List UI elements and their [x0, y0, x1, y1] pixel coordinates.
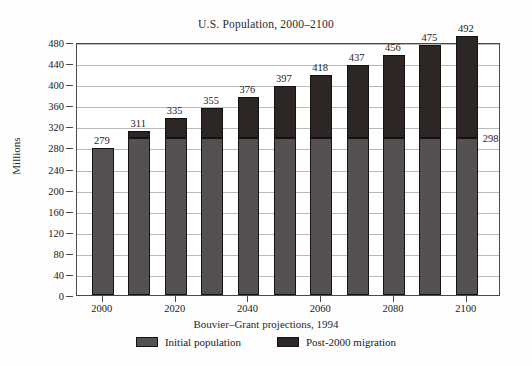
bar-segment-initial-population: [92, 148, 114, 295]
bar-2040[interactable]: [238, 97, 260, 295]
bar-segment-post-2000-migration: [310, 75, 332, 138]
x-tick-label: 2100: [455, 303, 476, 314]
y-tick-mark: [66, 233, 73, 234]
y-tick-label: 280: [18, 143, 64, 154]
bar-segment-post-2000-migration: [419, 45, 441, 138]
x-tick-mark: [175, 296, 176, 302]
bar-2050[interactable]: [274, 86, 296, 295]
bar-segment-post-2000-migration: [347, 65, 369, 138]
legend-label: Initial population: [165, 336, 241, 348]
x-tick-mark: [466, 296, 467, 302]
bar-segment-initial-population: [383, 138, 405, 295]
x-tick-label: 2000: [91, 303, 112, 314]
x-tick-label: 2040: [237, 303, 258, 314]
y-tick-mark: [66, 43, 73, 44]
legend-swatch-icon: [136, 337, 158, 347]
bar-2080[interactable]: [383, 55, 405, 295]
bar-value-label: 279: [94, 135, 110, 146]
bar-value-label: 355: [203, 95, 219, 106]
x-tick-label: 2020: [164, 303, 185, 314]
bar-segment-initial-population: [347, 138, 369, 295]
y-tick-label: 320: [18, 122, 64, 133]
x-tick-mark: [247, 296, 248, 302]
y-tick-label: 120: [18, 227, 64, 238]
base-level-annotation: 298: [483, 133, 499, 144]
y-tick-label: 40: [18, 269, 64, 280]
y-tick-label: 360: [18, 101, 64, 112]
chart-legend: Initial populationPost-2000 migration: [0, 336, 532, 348]
x-tick-mark: [320, 296, 321, 302]
y-tick-label: 400: [18, 80, 64, 91]
y-tick-label: 480: [18, 38, 64, 49]
bar-2030[interactable]: [201, 108, 223, 295]
bar-value-label: 437: [349, 52, 365, 63]
bar-segment-initial-population: [456, 138, 478, 295]
bar-2090[interactable]: [419, 45, 441, 295]
bar-2070[interactable]: [347, 65, 369, 295]
y-tick-mark: [66, 148, 73, 149]
y-tick-mark: [66, 85, 73, 86]
y-tick-label: 0: [18, 291, 64, 302]
y-tick-mark: [66, 127, 73, 128]
bar-value-label: 311: [131, 118, 146, 129]
legend-swatch-icon: [277, 337, 299, 347]
bar-segment-post-2000-migration: [201, 108, 223, 138]
y-tick-mark: [66, 212, 73, 213]
y-tick-label: 440: [18, 59, 64, 70]
x-tick-label: 2080: [382, 303, 403, 314]
bar-value-label: 418: [312, 62, 328, 73]
y-tick-mark: [66, 64, 73, 65]
bar-2020[interactable]: [165, 118, 187, 295]
bar-segment-post-2000-migration: [128, 131, 150, 138]
bar-value-label: 492: [458, 23, 474, 34]
y-tick-mark: [66, 106, 73, 107]
y-tick-label: 200: [18, 185, 64, 196]
bar-segment-initial-population: [201, 138, 223, 295]
y-tick-mark: [66, 191, 73, 192]
bar-segment-initial-population: [128, 138, 150, 295]
bar-value-label: 335: [167, 105, 183, 116]
bar-segment-initial-population: [419, 138, 441, 295]
legend-entry[interactable]: Initial population: [136, 336, 241, 348]
bar-segment-post-2000-migration: [238, 97, 260, 138]
y-tick-label: 80: [18, 248, 64, 259]
y-tick-mark: [66, 296, 73, 297]
x-axis-title: Bouvier–Grant projections, 1994: [0, 318, 532, 330]
bar-segment-post-2000-migration: [165, 118, 187, 138]
bar-segment-initial-population: [310, 138, 332, 295]
x-tick-mark: [393, 296, 394, 302]
bar-segment-initial-population: [165, 138, 187, 295]
y-tick-label: 240: [18, 164, 64, 175]
bar-segment-initial-population: [238, 138, 260, 295]
bar-value-label: 456: [385, 42, 401, 53]
bar-value-label: 397: [276, 73, 292, 84]
x-tick-mark: [102, 296, 103, 302]
y-tick-mark: [66, 254, 73, 255]
bar-2100[interactable]: [456, 36, 478, 295]
chart-figure: U.S. Population, 2000–2100 Millions Bouv…: [0, 0, 532, 366]
y-tick-label: 160: [18, 206, 64, 217]
legend-entry[interactable]: Post-2000 migration: [277, 336, 396, 348]
chart-title: U.S. Population, 2000–2100: [0, 18, 532, 30]
bar-segment-initial-population: [274, 138, 296, 295]
bar-segment-post-2000-migration: [456, 36, 478, 138]
bar-segment-post-2000-migration: [383, 55, 405, 138]
bar-2000[interactable]: [92, 148, 114, 295]
bar-value-label: 475: [422, 32, 438, 43]
y-tick-mark: [66, 170, 73, 171]
bar-segment-post-2000-migration: [274, 86, 296, 138]
bar-2060[interactable]: [310, 75, 332, 295]
legend-label: Post-2000 migration: [306, 336, 396, 348]
bar-value-label: 376: [240, 84, 256, 95]
x-tick-label: 2060: [310, 303, 331, 314]
bar-2010[interactable]: [128, 131, 150, 295]
y-tick-mark: [66, 275, 73, 276]
